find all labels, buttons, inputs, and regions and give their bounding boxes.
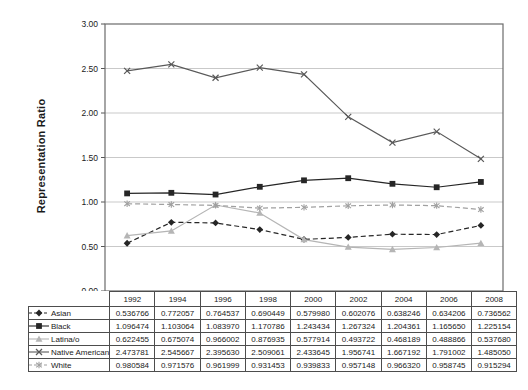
- value-cell: 0.764537: [200, 307, 245, 320]
- year-header: 2006: [426, 292, 471, 307]
- value-cell: 0.577914: [291, 333, 336, 346]
- value-cell: 0.690449: [245, 307, 290, 320]
- value-cell: 1.243434: [291, 320, 336, 333]
- table-row-white: White0.9805840.9715760.9619990.9314530.9…: [29, 359, 517, 372]
- value-cell: 1.225154: [472, 320, 517, 333]
- value-cell: 0.675074: [155, 333, 200, 346]
- value-cell: 0.966320: [381, 359, 426, 372]
- marker-triangle-icon: [168, 227, 175, 233]
- value-cell: 0.536766: [110, 307, 155, 320]
- y-axis-tick-label: 1.00: [81, 197, 98, 207]
- value-cell: 2.395630: [200, 346, 245, 359]
- marker-diamond-icon: [168, 219, 175, 226]
- legend-label-latina-o: Latina/o: [51, 335, 79, 344]
- marker-diamond-icon: [389, 231, 396, 238]
- value-cell: 1.170786: [245, 320, 290, 333]
- year-header: 2004: [381, 292, 426, 307]
- marker-diamond-icon: [477, 222, 484, 229]
- marker-diamond-icon: [345, 234, 352, 241]
- value-cell: 2.509061: [245, 346, 290, 359]
- marker-diamond-icon: [36, 310, 43, 317]
- table-row-native-american: Native American2.4737812.5456672.3956302…: [29, 346, 517, 359]
- value-cell: 0.634206: [426, 307, 471, 320]
- value-cell: 0.468189: [381, 333, 426, 346]
- marker-square-icon: [434, 184, 440, 190]
- chart-data-table: 199219941996199820002002200420062008Asia…: [28, 291, 517, 372]
- marker-square-icon: [168, 190, 174, 196]
- value-cell: 2.433645: [291, 346, 336, 359]
- value-cell: 0.915294: [472, 359, 517, 372]
- marker-square-icon: [301, 177, 307, 183]
- marker-square-icon: [345, 175, 351, 181]
- value-cell: 1.667192: [381, 346, 426, 359]
- value-cell: 0.980584: [110, 359, 155, 372]
- legend-key-latina-o-icon: [29, 334, 49, 344]
- marker-diamond-icon: [212, 220, 219, 227]
- value-cell: 0.602076: [336, 307, 381, 320]
- value-cell: 1.485050: [472, 346, 517, 359]
- y-axis-tick-label: 1.50: [81, 153, 98, 163]
- marker-square-icon: [478, 179, 484, 185]
- y-axis-tick-label: 0.50: [81, 242, 98, 252]
- y-axis-tick-label: 2.00: [81, 108, 98, 118]
- legend-cell-native-american: Native American: [29, 346, 110, 359]
- value-cell: 1.267324: [336, 320, 381, 333]
- value-cell: 1.204361: [381, 320, 426, 333]
- table-row-black: Black1.0964741.1030641.0839701.1707861.2…: [29, 320, 517, 333]
- legend-cell-white: White: [29, 359, 110, 372]
- series-line-native-american: [127, 64, 481, 158]
- value-cell: 0.537680: [472, 333, 517, 346]
- y-axis-title: Representation Ratio: [35, 54, 47, 259]
- value-cell: 0.638246: [381, 307, 426, 320]
- value-cell: 0.931453: [245, 359, 290, 372]
- value-cell: 0.488866: [426, 333, 471, 346]
- legend-cell-latina-o: Latina/o: [29, 333, 110, 346]
- value-cell: 0.957148: [336, 359, 381, 372]
- year-header: 1994: [155, 292, 200, 307]
- value-cell: 1.956741: [336, 346, 381, 359]
- value-cell: 0.939833: [291, 359, 336, 372]
- marker-square-icon: [257, 184, 263, 190]
- legend-cell-asian: Asian: [29, 307, 110, 320]
- year-header: 1998: [245, 292, 290, 307]
- value-cell: 0.971576: [155, 359, 200, 372]
- value-cell: 1.103064: [155, 320, 200, 333]
- value-cell: 0.876935: [245, 333, 290, 346]
- value-cell: 1.083970: [200, 320, 245, 333]
- year-header: 1996: [200, 292, 245, 307]
- marker-square-icon: [390, 181, 396, 187]
- marker-square-icon: [213, 192, 219, 198]
- value-cell: 0.958745: [426, 359, 471, 372]
- legend-key-asian-icon: [29, 308, 49, 318]
- year-header: 2000: [291, 292, 336, 307]
- marker-diamond-icon: [256, 226, 263, 233]
- value-cell: 0.772057: [155, 307, 200, 320]
- line-chart: 3.002.502.001.501.000.500.00: [0, 0, 528, 291]
- value-cell: 0.961999: [200, 359, 245, 372]
- table-corner-spacer: [29, 292, 110, 307]
- value-cell: 0.736562: [472, 307, 517, 320]
- value-cell: 1.791002: [426, 346, 471, 359]
- value-cell: 1.165650: [426, 320, 471, 333]
- legend-cell-black: Black: [29, 320, 110, 333]
- marker-x-icon: [345, 114, 351, 120]
- legend-label-white: White: [51, 361, 71, 370]
- y-axis-tick-label: 3.00: [81, 19, 98, 29]
- table-row-asian: Asian0.5367660.7720570.7645370.6904490.5…: [29, 307, 517, 320]
- marker-square-icon: [36, 323, 42, 329]
- marker-diamond-icon: [433, 231, 440, 238]
- value-cell: 2.545667: [155, 346, 200, 359]
- legend-key-native-american-icon: [29, 347, 49, 357]
- legend-label-native-american: Native American: [51, 348, 109, 357]
- marker-diamond-icon: [124, 240, 131, 247]
- legend-key-white-icon: [29, 360, 49, 370]
- year-header: 1992: [110, 292, 155, 307]
- value-cell: 0.579980: [291, 307, 336, 320]
- legend-label-black: Black: [51, 322, 71, 331]
- y-axis-tick-label: 2.50: [81, 64, 98, 74]
- year-header: 2008: [472, 292, 517, 307]
- value-cell: 0.493722: [336, 333, 381, 346]
- legend-key-black-icon: [29, 321, 49, 331]
- value-cell: 0.966002: [200, 333, 245, 346]
- chart-figure: 3.002.502.001.501.000.500.00 Representat…: [0, 0, 528, 390]
